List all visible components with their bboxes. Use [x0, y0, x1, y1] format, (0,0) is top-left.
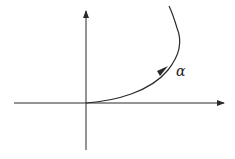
curve-alpha [86, 6, 180, 103]
curve-label: α [176, 63, 186, 79]
curve-diagram: α [0, 0, 235, 159]
direction-arrow-icon [157, 66, 168, 76]
